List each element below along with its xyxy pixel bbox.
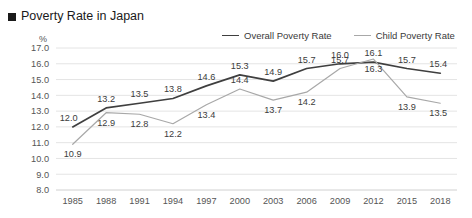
- gridlines: [56, 48, 457, 190]
- x-axis-tick-label: 2018: [430, 196, 450, 206]
- data-point-label: 12.2: [164, 129, 182, 139]
- x-axis-tick-label: 1997: [196, 196, 216, 206]
- y-axis-tick-label: 8.0: [36, 185, 49, 195]
- x-axis-tick-label: 1991: [129, 196, 149, 206]
- data-point-label: 14.6: [197, 72, 215, 82]
- x-axis-tick-label: 2000: [230, 196, 250, 206]
- data-point-label: 14.4: [231, 75, 249, 85]
- data-point-label: 14.2: [298, 97, 316, 107]
- data-point-label: 15.4: [429, 59, 447, 69]
- y-axis-tick-label: 14.0: [31, 91, 49, 101]
- y-axis-tick-label: 16.0: [31, 59, 49, 69]
- x-axis-tick-label: 2006: [296, 196, 316, 206]
- data-point-label: 16.3: [365, 64, 383, 74]
- y-axis-tick-label: 10.0: [31, 154, 49, 164]
- data-point-label: 13.2: [97, 94, 115, 104]
- data-point-label: 12.8: [131, 119, 149, 129]
- chart-container: Poverty Rate in Japan Overall Poverty Ra…: [0, 0, 472, 218]
- data-point-label: 13.8: [164, 84, 182, 94]
- y-axis-tick-labels: 17.016.015.014.013.012.011.010.09.08.0: [31, 43, 49, 195]
- data-point-label: 16.1: [365, 48, 383, 58]
- data-point-label: 12.9: [97, 118, 115, 128]
- data-point-label: 15.7: [398, 55, 416, 65]
- data-point-label: 14.9: [264, 67, 282, 77]
- x-axis-tick-label: 1985: [62, 196, 82, 206]
- data-point-label: 13.7: [264, 105, 282, 115]
- y-axis-tick-label: 15.0: [31, 75, 49, 85]
- data-point-label: 12.0: [60, 113, 78, 123]
- data-point-label: 10.9: [64, 149, 82, 159]
- x-axis-tick-label: 1994: [163, 196, 183, 206]
- x-axis-tick-label: 2012: [363, 196, 383, 206]
- x-axis-tick-label: 2009: [330, 196, 350, 206]
- x-axis-tick-label: 2003: [263, 196, 283, 206]
- x-axis-tick-labels: 1985198819911994199720002003200620092012…: [62, 196, 450, 206]
- data-point-label: 15.7: [298, 55, 316, 65]
- data-point-label: 13.9: [398, 102, 416, 112]
- data-point-label: 13.5: [429, 108, 447, 118]
- y-axis-tick-label: 13.0: [31, 106, 49, 116]
- series-lines: [73, 59, 441, 144]
- chart-plot-area: 17.016.015.014.013.012.011.010.09.08.0 1…: [0, 0, 472, 218]
- x-axis-tick-label: 1988: [96, 196, 116, 206]
- series-line-child: [73, 59, 441, 144]
- y-axis-tick-label: 12.0: [31, 122, 49, 132]
- data-point-label: 13.5: [131, 89, 149, 99]
- data-point-label: 15.7: [331, 55, 349, 65]
- y-axis-tick-label: 17.0: [31, 43, 49, 53]
- data-point-label: 15.3: [231, 61, 249, 71]
- x-axis-tick-label: 2015: [397, 196, 417, 206]
- data-point-label: 13.4: [197, 110, 215, 120]
- y-axis-tick-label: 11.0: [32, 138, 49, 148]
- y-axis-tick-label: 9.0: [36, 170, 49, 180]
